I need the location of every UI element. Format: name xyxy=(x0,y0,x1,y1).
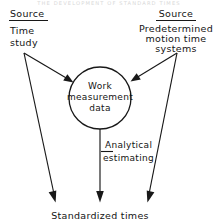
work-measurement-data-line3: data xyxy=(89,103,110,113)
standardized-times-node: Standardized times xyxy=(51,210,149,221)
arrow-pmts-to-node-head xyxy=(131,73,141,81)
arrow-time-study-to-node-head xyxy=(63,74,73,82)
analytical-estimating-line1: Analytical xyxy=(105,140,152,150)
arrow-time-study-to-output-shaft xyxy=(24,53,54,194)
arrow-node-to-output-head xyxy=(96,191,104,203)
left-source-group: Source Time study xyxy=(9,8,48,48)
arrow-pmts-to-output xyxy=(147,53,177,203)
arrow-pmts-to-output-head xyxy=(147,191,155,203)
work-measurement-data-node: Work measurement data xyxy=(67,67,133,129)
left-source-heading: Source xyxy=(10,8,44,19)
work-measurement-data-line1: Work xyxy=(88,81,112,91)
standardized-times-label: Standardized times xyxy=(51,210,149,221)
right-source-line3: systems xyxy=(155,43,196,54)
left-source-line1: Time xyxy=(9,25,34,36)
work-measurement-data-line2: measurement xyxy=(67,92,133,102)
analytical-estimating-label: Analytical estimating xyxy=(101,140,154,163)
arrow-pmts-to-node xyxy=(131,53,178,82)
arrow-pmts-to-node-shaft xyxy=(134,53,178,80)
arrow-node-to-output xyxy=(96,129,104,203)
arrow-time-study-to-node xyxy=(24,53,74,83)
arrow-pmts-to-output-shaft xyxy=(149,53,177,194)
analytical-estimating-line2: estimating xyxy=(103,153,154,163)
arrow-time-study-to-output-head xyxy=(49,191,57,203)
left-source-line2: study xyxy=(10,37,38,48)
right-source-group: Source Predetermined motion time systems xyxy=(139,8,213,54)
right-source-heading: Source xyxy=(159,8,193,19)
arrow-time-study-to-output xyxy=(24,53,56,203)
diagram-root: THE DEVELOPMENT OF STANDARD TIMES Source… xyxy=(0,0,218,224)
arrow-time-study-to-node-shaft xyxy=(24,53,71,81)
diagram-canvas: Source Time study Source Predetermined m… xyxy=(0,0,218,224)
